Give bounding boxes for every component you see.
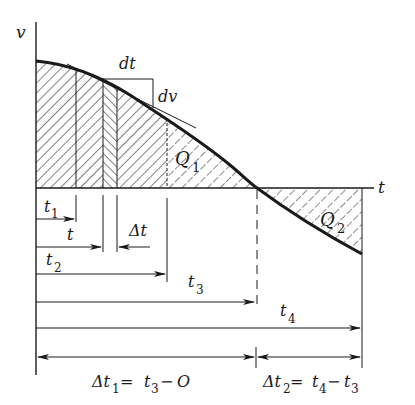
svg-text:=: =: [120, 372, 133, 391]
t3-subscript: 3: [196, 283, 204, 297]
svg-text:t: t: [344, 372, 351, 391]
t-axis-label: t: [378, 177, 385, 197]
t1-label: t: [44, 197, 51, 216]
svg-text:Δt: Δt: [91, 372, 111, 391]
t4-label: t: [280, 301, 287, 320]
svg-text:1: 1: [112, 382, 120, 396]
q2-subscript: 2: [337, 221, 345, 236]
t1-subscript: 1: [51, 207, 59, 221]
svg-text:−: −: [160, 372, 173, 391]
v-axis-label: v: [16, 22, 26, 42]
svg-text:3: 3: [151, 382, 159, 396]
t4-subscript: 4: [288, 312, 296, 326]
dt-label: dt: [119, 54, 136, 73]
svg-text:4: 4: [319, 382, 327, 396]
t-label: t: [67, 225, 74, 244]
q1-region: [36, 40, 259, 190]
svg-text:3: 3: [351, 382, 359, 396]
svg-text:Δt: Δt: [262, 372, 282, 391]
q2-label: Q: [320, 209, 335, 230]
t3-label: t: [188, 272, 195, 291]
svg-text:t: t: [144, 372, 151, 391]
svg-text:=: =: [290, 372, 303, 391]
q1-subscript: 1: [192, 160, 200, 175]
delta-t1-equation: Δt 1 = t 3 − O: [91, 372, 190, 396]
t2-subscript: 2: [54, 261, 62, 275]
delta-t-label: Δt: [128, 221, 148, 240]
delta-t2-equation: Δt 2 = t 4 − t 3: [262, 372, 359, 396]
dv-label: dv: [158, 87, 177, 106]
svg-text:−: −: [327, 372, 340, 391]
q1-label: Q: [175, 148, 190, 169]
velocity-time-diagram: v t dt dv Q 1 Q 2 t 1 t Δt t 2 t 3 t 4 Δ…: [0, 0, 415, 405]
svg-text:O: O: [177, 372, 190, 391]
t2-label: t: [46, 250, 53, 269]
svg-text:t: t: [312, 372, 319, 391]
